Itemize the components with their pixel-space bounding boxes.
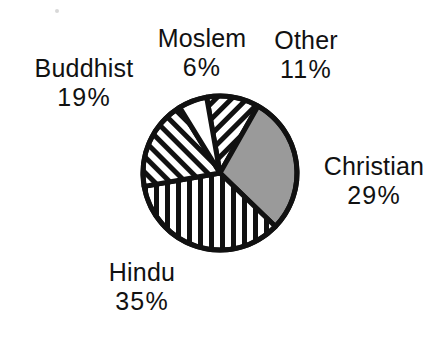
slice-label-other: Other 11% xyxy=(254,26,358,84)
slice-label-other-percent: 11% xyxy=(254,55,358,84)
slice-label-other-name: Other xyxy=(274,26,338,54)
slice-label-moslem-percent: 6% xyxy=(146,53,258,82)
slice-label-buddhist-percent: 19% xyxy=(18,83,150,112)
slice-label-hindu-percent: 35% xyxy=(78,287,206,316)
slice-label-hindu-name: Hindu xyxy=(109,258,175,286)
slice-label-buddhist-name: Buddhist xyxy=(35,54,134,82)
slice-label-christian: Christian 29% xyxy=(306,152,442,210)
slice-label-moslem-name: Moslem xyxy=(158,24,247,52)
pie-chart-figure: Buddhist 19% Moslem 6% Other 11% Christi… xyxy=(0,0,445,339)
slice-label-christian-percent: 29% xyxy=(306,181,442,210)
slice-label-hindu: Hindu 35% xyxy=(78,258,206,316)
slice-label-moslem: Moslem 6% xyxy=(146,24,258,82)
slice-label-christian-name: Christian xyxy=(324,152,424,180)
slice-label-buddhist: Buddhist 19% xyxy=(18,54,150,112)
